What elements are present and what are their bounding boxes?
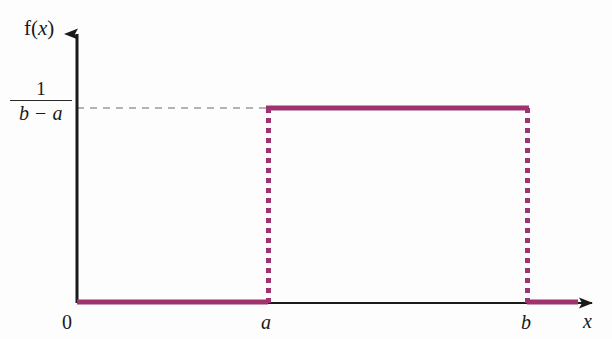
- x-axis-label: x: [583, 311, 592, 331]
- denominator-a: a: [52, 102, 63, 124]
- x-tick-label-origin: 0: [62, 312, 72, 332]
- y-axis-label: f(x): [24, 18, 54, 39]
- plot-canvas: [0, 0, 612, 339]
- x-tick-label-a: a: [261, 312, 271, 332]
- y-axis-label-close: ): [47, 16, 54, 40]
- y-axis-label-fn: f(: [24, 16, 38, 40]
- denominator-b: b: [19, 102, 30, 124]
- fraction-denominator: b − a: [8, 101, 74, 125]
- fraction-numerator: 1: [8, 79, 74, 100]
- denominator-operator: −: [30, 102, 53, 124]
- y-tick-label-height: 1 b − a: [8, 79, 74, 125]
- uniform-distribution-figure: f(x) 1 b − a 0 a b x: [0, 0, 612, 339]
- y-axis-label-var: x: [38, 16, 47, 40]
- x-tick-label-b: b: [521, 312, 531, 332]
